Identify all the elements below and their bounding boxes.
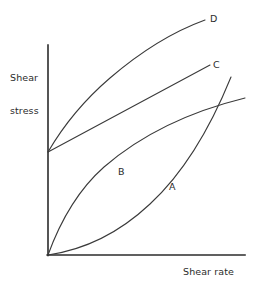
curve-label-a: A — [169, 182, 176, 192]
y-axis-label: Shear stress — [10, 50, 39, 138]
curve-A-dilatant — [48, 77, 231, 255]
curve-C-bingham-plastic — [48, 65, 210, 152]
x-axis-label: Shear rate — [183, 266, 234, 277]
plot-area — [0, 0, 259, 292]
curve-label-b: B — [118, 167, 125, 177]
chart-figure: Shear stress Shear rate A B C D — [0, 0, 259, 292]
curve-B-pseudoplastic — [48, 98, 245, 255]
curve-label-d: D — [210, 14, 217, 24]
curve-D-yield-pseudoplastic — [48, 20, 205, 152]
curve-label-c: C — [213, 60, 220, 70]
y-axis-label-line1: Shear — [10, 72, 39, 83]
y-axis-label-line2: stress — [10, 105, 39, 116]
